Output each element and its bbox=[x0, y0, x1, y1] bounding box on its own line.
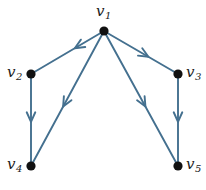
vertex-label-v4: v4 bbox=[7, 157, 22, 172]
vertex-label-v3: v3 bbox=[186, 65, 201, 80]
vertex-label-v1: v1 bbox=[96, 4, 111, 19]
vertex-node-v2 bbox=[26, 69, 35, 78]
vertex-label-v4-base: v bbox=[7, 155, 15, 173]
vertex-label-v4-subscript: 4 bbox=[16, 163, 22, 174]
edge-v1-v3 bbox=[107, 33, 175, 73]
vertex-label-v2: v2 bbox=[7, 65, 22, 80]
vertex-label-v5-subscript: 5 bbox=[195, 163, 201, 174]
vertex-node-v5 bbox=[173, 161, 182, 170]
vertex-label-v3-base: v bbox=[186, 63, 194, 81]
arrowheads-layer bbox=[27, 40, 183, 122]
vertex-label-v5-base: v bbox=[186, 155, 194, 173]
vertex-label-v2-subscript: 2 bbox=[16, 71, 22, 82]
vertex-label-v2-base: v bbox=[7, 63, 15, 81]
edge-v1-v2 bbox=[34, 33, 101, 73]
vertex-node-v3 bbox=[173, 69, 182, 78]
graph-canvas bbox=[0, 0, 206, 190]
vertex-label-v1-subscript: 1 bbox=[105, 10, 111, 21]
edges-layer bbox=[31, 33, 178, 163]
vertices-layer bbox=[26, 26, 182, 170]
vertex-label-v3-subscript: 3 bbox=[195, 71, 201, 82]
vertex-label-v1-base: v bbox=[96, 2, 104, 20]
vertex-node-v1 bbox=[99, 26, 108, 35]
directed-graph-figure: v1v2v3v4v5 bbox=[0, 0, 206, 190]
vertex-node-v4 bbox=[26, 161, 35, 170]
vertex-label-v5: v5 bbox=[186, 157, 201, 172]
